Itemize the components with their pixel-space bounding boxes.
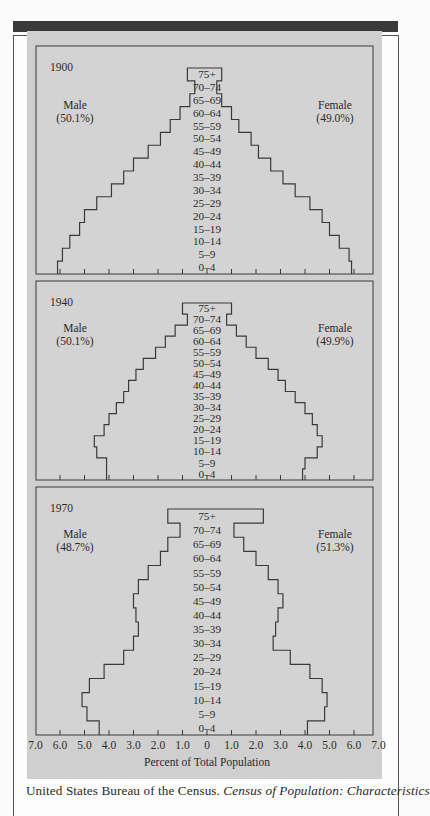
- age-group-label: 5–9: [199, 708, 216, 720]
- caption-plain: United States Bureau of the Census.: [26, 783, 223, 798]
- x-tick-label: 7.0: [371, 739, 386, 751]
- age-group-label: 20–24: [193, 423, 221, 435]
- female-label: Female: [318, 99, 352, 111]
- female-share: (49.9%): [316, 335, 354, 348]
- year-label: 1940: [50, 296, 73, 308]
- x-tick-label: 4.0: [102, 739, 117, 751]
- age-group-label: 30–34: [193, 401, 221, 413]
- age-group-label: 75+: [198, 302, 216, 314]
- age-group-label: 70–74: [193, 81, 221, 93]
- x-tick-label: 2.0: [151, 739, 166, 751]
- pyramid-panel-1940: 0–45–910–1415–1920–2425–2930–3435–3940–4…: [36, 281, 373, 480]
- age-group-label: 15–19: [193, 434, 221, 446]
- age-group-label: 40–44: [193, 158, 221, 170]
- age-group-label: 50–54: [193, 581, 221, 593]
- year-label: 1900: [50, 61, 73, 73]
- age-group-label: 50–54: [193, 132, 221, 144]
- age-group-label: 35–39: [193, 390, 221, 402]
- x-tick-label: 1.0: [175, 739, 190, 751]
- pyramid-panel-1900: 0–45–910–1415–1920–2425–2930–3435–3940–4…: [36, 46, 373, 274]
- male-share: (50.1%): [56, 112, 94, 125]
- age-group-label: 75+: [198, 510, 216, 522]
- age-group-label: 15–19: [193, 680, 221, 692]
- age-group-label: 65–69: [193, 538, 221, 550]
- age-group-label: 10–14: [193, 235, 221, 247]
- age-group-label: 55–59: [193, 346, 221, 358]
- age-group-label: 55–59: [193, 120, 221, 132]
- age-group-label: 60–64: [193, 107, 221, 119]
- age-group-label: 55–59: [193, 567, 221, 579]
- female-label: Female: [318, 322, 352, 334]
- male-label: Male: [63, 528, 87, 540]
- age-group-label: 5–9: [199, 457, 216, 469]
- age-group-label: 50–54: [193, 357, 221, 369]
- age-group-label: 5–9: [199, 248, 216, 260]
- age-group-label: 70–74: [193, 524, 221, 536]
- male-share: (50.1%): [56, 335, 94, 348]
- x-tick-label: 7.0: [28, 739, 43, 751]
- age-group-label: 15–19: [193, 223, 221, 235]
- age-group-label: 40–44: [193, 609, 221, 621]
- male-share: (48.7%): [56, 541, 94, 554]
- x-tick-label: 2.0: [249, 739, 264, 751]
- x-tick-label: 3.0: [273, 739, 288, 751]
- figure-caption: United States Bureau of the Census. Cens…: [26, 783, 430, 799]
- age-group-label: 70–74: [193, 313, 221, 325]
- age-group-label: 10–14: [193, 694, 221, 706]
- age-group-label: 45–49: [193, 145, 221, 157]
- x-tick-label: 5.0: [77, 739, 92, 751]
- age-group-label: 25–29: [193, 651, 221, 663]
- x-tick-label: 3.0: [126, 739, 141, 751]
- age-group-label: 20–24: [193, 210, 221, 222]
- x-tick-label: 6.0: [53, 739, 68, 751]
- caption-italic: Census of Population: Characteristics: [223, 783, 429, 798]
- age-group-label: 10–14: [193, 445, 221, 457]
- x-tick-label: 1.0: [224, 739, 239, 751]
- age-group-label: 35–39: [193, 623, 221, 635]
- age-group-label: 20–24: [193, 665, 221, 677]
- age-group-label: 40–44: [193, 379, 221, 391]
- female-share: (51.3%): [316, 541, 354, 554]
- age-group-label: 35–39: [193, 171, 221, 183]
- female-share: (49.0%): [316, 112, 354, 125]
- x-tick-label: 6.0: [347, 739, 362, 751]
- age-group-label: 65–69: [193, 94, 221, 106]
- x-tick-label: 0: [204, 739, 210, 751]
- age-group-label: 30–34: [193, 637, 221, 649]
- age-group-label: 65–69: [193, 324, 221, 336]
- x-axis: 7.06.05.04.03.02.01.001.02.03.04.05.06.0…: [28, 739, 386, 769]
- age-group-label: 75+: [198, 68, 216, 80]
- male-label: Male: [63, 99, 87, 111]
- year-label: 1970: [50, 502, 73, 514]
- age-group-label: 25–29: [193, 412, 221, 424]
- age-group-label: 25–29: [193, 197, 221, 209]
- x-tick-label: 4.0: [298, 739, 313, 751]
- age-group-label: 60–64: [193, 335, 221, 347]
- age-group-label: 45–49: [193, 595, 221, 607]
- age-group-label: 60–64: [193, 552, 221, 564]
- male-label: Male: [63, 322, 87, 334]
- age-group-label: 45–49: [193, 368, 221, 380]
- female-label: Female: [318, 528, 352, 540]
- x-axis-title: Percent of Total Population: [144, 756, 270, 769]
- age-group-label: 30–34: [193, 184, 221, 196]
- pyramid-panel-1970: 0–45–910–1415–1920–2425–2930–3435–3940–4…: [36, 487, 373, 735]
- x-tick-label: 5.0: [322, 739, 337, 751]
